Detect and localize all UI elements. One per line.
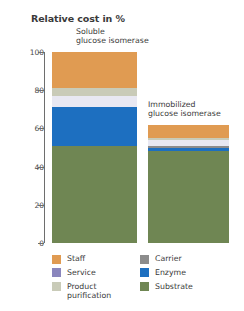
bar-segment-service bbox=[52, 96, 137, 107]
bar-segment-substrate bbox=[52, 146, 137, 243]
bar-category-label: Immobilized glucose isomerase bbox=[148, 100, 221, 119]
bar-segment-product-purification bbox=[52, 88, 137, 96]
relative-cost-stacked-bar-chart: Relative cost in % 020406080100 Soluble … bbox=[0, 0, 244, 311]
y-axis-tick: 80 bbox=[0, 90, 44, 91]
stacked-bar bbox=[52, 52, 137, 243]
y-axis-tick-mark bbox=[38, 90, 44, 91]
bar-segment-staff bbox=[148, 125, 229, 138]
legend-item-label: Service bbox=[67, 268, 96, 277]
bar-segment-enzyme bbox=[52, 107, 137, 145]
bar-segment-substrate bbox=[148, 151, 229, 243]
y-axis-tick-mark bbox=[38, 52, 44, 53]
legend-item-label: Staff bbox=[67, 254, 85, 263]
bar-segment-staff bbox=[52, 52, 137, 88]
y-axis-tick-mark bbox=[38, 205, 44, 206]
legend-item[interactable]: Product purification bbox=[52, 282, 144, 300]
y-axis-tick: 60 bbox=[0, 128, 44, 129]
legend-column-left: StaffServiceProduct purification bbox=[52, 254, 144, 305]
y-axis-tick: 100 bbox=[0, 52, 44, 53]
chart-legend: StaffServiceProduct purification Carrier… bbox=[52, 254, 242, 308]
y-axis-spine bbox=[44, 52, 45, 243]
legend-item-label: Enzyme bbox=[155, 268, 186, 277]
legend-item[interactable]: Staff bbox=[52, 254, 144, 264]
legend-item-label: Product purification bbox=[67, 282, 111, 300]
legend-item[interactable]: Service bbox=[52, 268, 144, 278]
legend-item[interactable]: Enzyme bbox=[140, 268, 232, 278]
legend-column-right: CarrierEnzymeSubstrate bbox=[140, 254, 232, 296]
color-swatch-icon bbox=[140, 282, 149, 291]
color-swatch-icon bbox=[52, 282, 61, 291]
y-axis-tick-mark bbox=[38, 128, 44, 129]
y-axis-tick: 0 bbox=[0, 243, 44, 244]
stacked-bar bbox=[148, 125, 229, 243]
legend-item[interactable]: Substrate bbox=[140, 282, 232, 292]
y-axis-tick-mark bbox=[38, 243, 44, 244]
legend-item-label: Carrier bbox=[155, 254, 182, 263]
color-swatch-icon bbox=[140, 268, 149, 277]
bar-category-label: Soluble glucose isomerase bbox=[76, 27, 149, 46]
color-swatch-icon bbox=[52, 255, 61, 264]
legend-item[interactable]: Carrier bbox=[140, 254, 232, 264]
y-axis-tick-mark bbox=[38, 167, 44, 168]
color-swatch-icon bbox=[52, 268, 61, 277]
plot-area: 020406080100 Soluble glucose isomeraseIm… bbox=[0, 0, 244, 250]
y-axis-tick: 40 bbox=[0, 167, 44, 168]
legend-item-label: Substrate bbox=[155, 282, 193, 291]
y-axis-tick: 20 bbox=[0, 205, 44, 206]
color-swatch-icon bbox=[140, 255, 149, 264]
